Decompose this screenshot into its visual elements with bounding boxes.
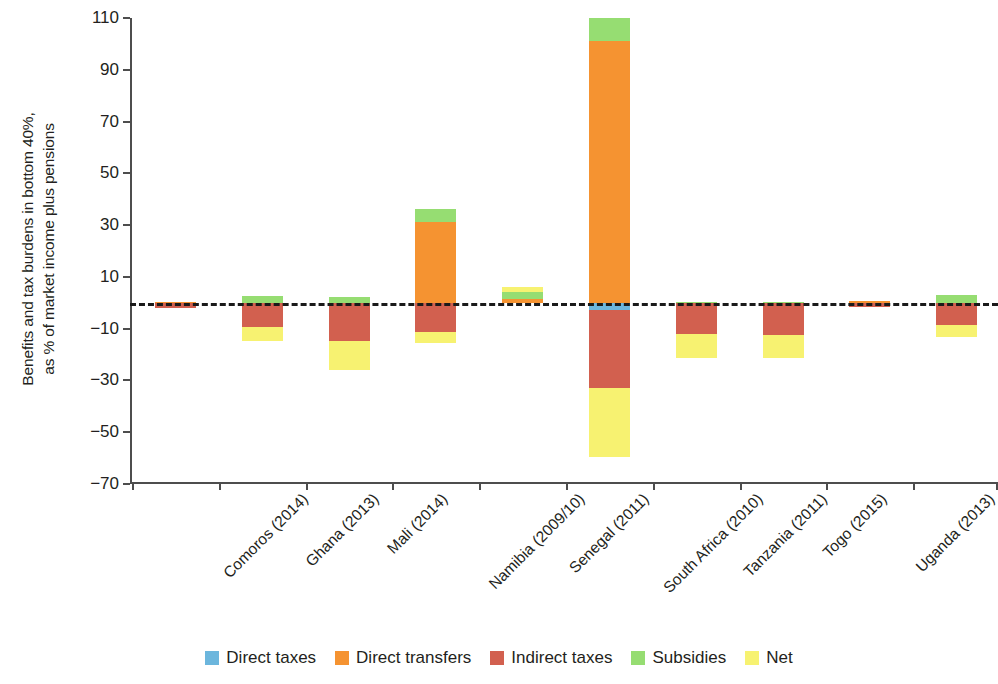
y-axis-tick-label: 90 <box>100 60 119 80</box>
x-axis-label: Comoros (2014) <box>220 490 312 582</box>
x-axis-category-labels: Comoros (2014)Ghana (2013)Mali (2014)Nam… <box>130 484 998 634</box>
bar-segment-net[interactable] <box>242 327 283 341</box>
bar-group[interactable] <box>936 18 977 484</box>
y-axis-tick-label: −50 <box>90 422 119 442</box>
bar-segment-net[interactable] <box>936 325 977 337</box>
legend-label: Indirect taxes <box>511 648 612 668</box>
bar-segment-indirect-taxes[interactable] <box>589 310 630 388</box>
bar-segment-indirect-taxes[interactable] <box>415 303 456 332</box>
y-axis-tick-label: 70 <box>100 112 119 132</box>
y-axis-tick <box>123 69 130 71</box>
bar-segment-subsidies[interactable] <box>502 292 543 299</box>
bar-group[interactable] <box>242 18 283 484</box>
bar-group[interactable] <box>849 18 890 484</box>
bar-segment-net[interactable] <box>415 332 456 343</box>
bar-segment-indirect-taxes[interactable] <box>242 303 283 327</box>
bar-group[interactable] <box>763 18 804 484</box>
y-axis-tick <box>123 276 130 278</box>
y-axis-tick <box>123 483 130 485</box>
chart-root: Benefits and tax burdens in bottom 40%, … <box>0 0 998 684</box>
legend-label: Direct taxes <box>226 648 316 668</box>
zero-reference-line <box>130 303 998 306</box>
legend-label: Direct transfers <box>356 648 471 668</box>
y-axis-tick-label: −70 <box>90 474 119 494</box>
legend-item[interactable]: Indirect taxes <box>490 648 612 668</box>
plot-area: −70−50−30−101030507090110 <box>130 18 998 484</box>
bar-group[interactable] <box>676 18 717 484</box>
bar-segment-direct-transfers[interactable] <box>589 41 630 302</box>
x-axis-label: Uganda (2013) <box>912 490 998 576</box>
bar-segment-indirect-taxes[interactable] <box>676 303 717 334</box>
x-axis-label: South Africa (2010) <box>660 490 767 597</box>
bar-group[interactable] <box>589 18 630 484</box>
y-axis-tick-label: −30 <box>90 370 119 390</box>
y-axis-tick-label: 50 <box>100 163 119 183</box>
bar-segment-indirect-taxes[interactable] <box>936 303 977 325</box>
bar-group[interactable] <box>329 18 370 484</box>
y-axis-tick <box>123 431 130 433</box>
x-axis-label: Togo (2015) <box>819 490 890 561</box>
y-axis-tick-label: 30 <box>100 215 119 235</box>
y-axis-tick-label: 110 <box>92 8 119 28</box>
bar-segment-net[interactable] <box>589 388 630 457</box>
x-axis-label: Ghana (2013) <box>302 490 382 570</box>
bar-segment-indirect-taxes[interactable] <box>329 303 370 341</box>
bar-segment-net[interactable] <box>763 335 804 358</box>
y-axis-tick-label: −10 <box>90 319 119 339</box>
bar-group[interactable] <box>155 18 196 484</box>
bar-segment-subsidies[interactable] <box>936 295 977 303</box>
y-axis-tick-label: 10 <box>100 267 119 287</box>
y-axis-title: Benefits and tax burdens in bottom 40%, … <box>17 29 59 469</box>
y-axis-tick <box>123 17 130 19</box>
legend-item[interactable]: Direct taxes <box>205 648 316 668</box>
bar-group[interactable] <box>502 18 543 484</box>
bar-segment-subsidies[interactable] <box>589 18 630 41</box>
x-axis-label: Mali (2014) <box>384 490 452 558</box>
y-axis-line <box>130 18 132 484</box>
y-axis-tick <box>123 224 130 226</box>
legend-swatch-indirect-taxes-icon <box>490 651 504 665</box>
legend-item[interactable]: Net <box>745 648 792 668</box>
y-axis-tick <box>123 172 130 174</box>
legend-item[interactable]: Direct transfers <box>335 648 471 668</box>
y-axis-tick <box>123 379 130 381</box>
legend-label: Subsidies <box>652 648 726 668</box>
y-axis-tick <box>123 121 130 123</box>
x-axis-label: Namibia (2009/10) <box>485 490 588 593</box>
legend-swatch-direct-taxes-icon <box>205 651 219 665</box>
y-axis-tick <box>123 328 130 330</box>
bar-segment-subsidies[interactable] <box>242 296 283 303</box>
legend-swatch-net-icon <box>745 651 759 665</box>
bar-segment-direct-transfers[interactable] <box>415 222 456 303</box>
bar-segment-subsidies[interactable] <box>415 209 456 222</box>
legend-swatch-subsidies-icon <box>631 651 645 665</box>
legend-swatch-direct-transfers-icon <box>335 651 349 665</box>
y-axis-title-wrap: Benefits and tax burdens in bottom 40%, … <box>0 0 70 500</box>
legend-label: Net <box>766 648 792 668</box>
legend-item[interactable]: Subsidies <box>631 648 726 668</box>
chart-legend: Direct taxesDirect transfersIndirect tax… <box>0 648 998 668</box>
bar-segment-net[interactable] <box>676 334 717 358</box>
bar-segment-indirect-taxes[interactable] <box>763 303 804 335</box>
bar-segment-net[interactable] <box>329 341 370 370</box>
bar-group[interactable] <box>415 18 456 484</box>
